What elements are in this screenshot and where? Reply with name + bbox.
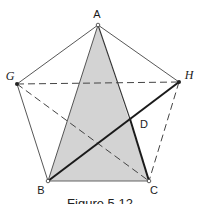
- label-a: A: [93, 9, 100, 20]
- figure-caption: Figure 5.12: [67, 196, 133, 205]
- geometry-figure: [0, 0, 200, 204]
- label-b: B: [37, 185, 44, 196]
- shaded-triangle-abc: [48, 25, 149, 181]
- segment-gb: [17, 84, 48, 181]
- segment-hc-dashed: [149, 82, 179, 181]
- point-h: [177, 80, 181, 84]
- point-g: [15, 82, 19, 86]
- point-d: [129, 118, 132, 121]
- label-h: H: [185, 69, 194, 81]
- label-c: C: [150, 185, 158, 196]
- point-c: [147, 179, 151, 183]
- label-g: G: [6, 70, 15, 82]
- point-b: [46, 179, 50, 183]
- label-d: D: [140, 119, 148, 130]
- point-a: [96, 23, 100, 27]
